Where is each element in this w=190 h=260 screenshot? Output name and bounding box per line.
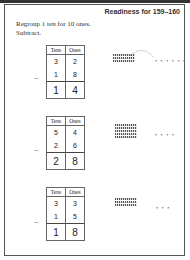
top-ones: 4 [66,126,85,140]
sub-tens: 1 [47,68,66,82]
sub-ones: 8 [66,68,85,82]
problem-1-table: TensOnes 32 18 14 [46,45,85,99]
sub-ones: 6 [66,139,85,153]
ones-header: Ones [66,46,85,55]
minus-sign: − [34,146,39,155]
page-header: Readiness for 159–160 [105,8,181,15]
tens-header: Tens [47,188,66,197]
top-tens: 3 [47,197,66,211]
ones-cubes-icon: • • • [156,205,170,211]
sub-ones: 5 [66,210,85,224]
ones-cubes-icon: • • • • • • [155,58,186,64]
sub-tens: 2 [47,139,66,153]
ones-header: Ones [66,117,85,126]
top-ones: 3 [66,197,85,211]
instructions: Regroup 1 ten for 10 ones. Subtract. [16,20,91,38]
sub-tens: 1 [47,210,66,224]
tens-header: Tens [47,117,66,126]
top-rule [0,0,190,3]
answer-ones[interactable]: 8 [66,224,85,241]
page-frame [4,4,185,256]
answer-tens[interactable]: 1 [47,224,66,241]
tens-header: Tens [47,46,66,55]
minus-sign: − [34,218,39,227]
answer-tens[interactable]: 1 [47,82,66,99]
ones-cubes-icon: • • • • [155,132,175,138]
top-ones: 2 [66,55,85,69]
top-tens: 3 [47,55,66,69]
tens-rods-icon [115,198,137,207]
problem-3-table: TensOnes 33 15 18 [46,187,85,241]
regroup-arrow-icon [128,48,158,62]
answer-ones[interactable]: 4 [66,82,85,99]
top-tens: 5 [47,126,66,140]
instruction-line-2: Subtract. [16,29,91,38]
tens-rods-icon [115,124,137,139]
answer-ones[interactable]: 8 [66,153,85,170]
answer-tens[interactable]: 2 [47,153,66,170]
instruction-line-1: Regroup 1 ten for 10 ones. [16,20,91,29]
problem-2-table: TensOnes 54 26 28 [46,116,85,170]
minus-sign: − [34,74,39,83]
ones-header: Ones [66,188,85,197]
